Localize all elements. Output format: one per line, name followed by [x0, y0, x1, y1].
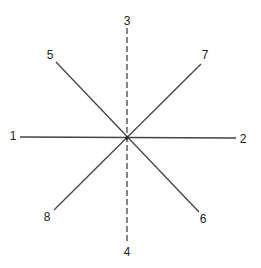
label-8: 8	[44, 210, 51, 224]
label-3: 3	[124, 14, 131, 28]
label-6: 6	[200, 212, 207, 226]
center-point	[125, 136, 129, 140]
label-5: 5	[47, 48, 54, 62]
radial-line-diagram: 12345678	[0, 0, 261, 268]
label-1: 1	[10, 129, 17, 143]
label-7: 7	[202, 48, 209, 62]
label-2: 2	[240, 132, 247, 146]
label-4: 4	[124, 245, 131, 259]
